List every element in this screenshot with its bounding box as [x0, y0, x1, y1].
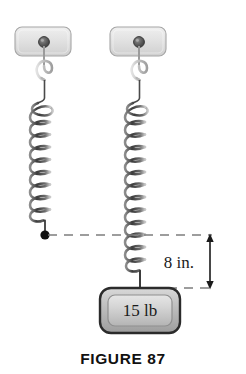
right-spring-top-wire [133, 80, 140, 103]
dimension-arrowhead-up-icon [206, 234, 213, 243]
mount-bolt-icon [39, 37, 50, 48]
figure-87-illustration: 8 in. 15 lb FIGURE 87 [0, 0, 246, 374]
weight-block-label: 15 lb [123, 301, 157, 320]
dimension-label: 8 in. [164, 253, 194, 272]
figure-caption: FIGURE 87 [80, 350, 166, 367]
right-spring-bottom-wire [139, 271, 140, 289]
hanging-weight-block: 15 lb [100, 288, 180, 333]
dimension-arrow-8in: 8 in. [164, 234, 214, 290]
mount-bolt-icon [134, 37, 145, 48]
right-coil-spring [125, 103, 148, 272]
mount-bolt-highlight-icon [41, 39, 44, 42]
right-spring-assembly [110, 27, 166, 288]
mount-bolt-highlight-icon [136, 39, 139, 42]
left-spring-assembly [15, 27, 71, 240]
figure-canvas: 8 in. 15 lb FIGURE 87 [0, 0, 246, 374]
left-coil-spring [30, 103, 53, 222]
left-spring-top-wire [38, 80, 45, 103]
